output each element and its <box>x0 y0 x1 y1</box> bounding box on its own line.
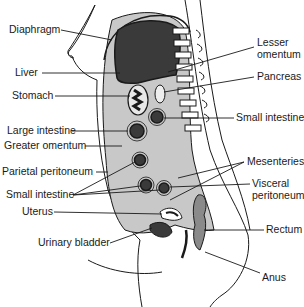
pancreas-shape <box>155 85 165 103</box>
label-greater-omentum: Greater omentum <box>4 140 86 151</box>
small-intestine-loop-1 <box>135 155 146 166</box>
label-anus: Anus <box>262 272 286 283</box>
anatomy-diagram: Diaphragm Liver Stomach Large intestine … <box>0 0 304 307</box>
gluteal-curve <box>88 260 162 274</box>
label-small-intestine-left: Small intestine <box>6 189 74 200</box>
label-lesser-omentum-line1: Lesser <box>257 37 289 48</box>
body-outline-back <box>185 0 249 307</box>
label-stomach: Stomach <box>12 90 53 101</box>
label-urinary-bladder: Urinary bladder <box>38 237 110 248</box>
vaginal-canal <box>182 230 187 258</box>
label-visceral-peritoneum-line2: peritoneum <box>252 190 304 201</box>
label-large-intestine: Large intestine <box>7 125 76 136</box>
small-intestine-upper <box>151 111 163 123</box>
large-intestine-shape <box>130 124 144 138</box>
label-lesser-omentum-line2: omentum <box>257 49 301 60</box>
label-rectum: Rectum <box>266 224 302 235</box>
label-diaphragm: Diaphragm <box>9 24 60 35</box>
small-intestine-loop-2 <box>141 180 152 191</box>
label-small-intestine-right: Small intestine <box>236 112 304 123</box>
label-liver: Liver <box>15 67 38 78</box>
label-parietal-peritoneum: Parietal peritoneum <box>2 166 93 177</box>
label-mesenteries: Mesenteries <box>247 156 304 167</box>
rectum-shape <box>193 195 206 250</box>
spinous-processes <box>196 30 209 122</box>
label-visceral-peritoneum-line1: Visceral <box>252 178 289 189</box>
liver-shape <box>115 21 180 84</box>
label-uterus: Uterus <box>22 206 53 217</box>
label-pancreas: Pancreas <box>257 71 301 82</box>
small-intestine-loop-3 <box>159 183 169 193</box>
